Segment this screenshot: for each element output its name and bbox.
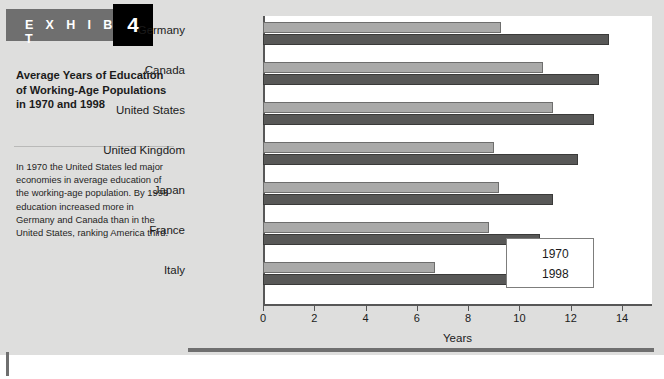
legend-swatch-1970 [516,246,532,261]
x-axis-tick-label: 8 [453,312,483,324]
x-axis-tick-label: 6 [402,312,432,324]
x-axis-title: Years [263,332,652,344]
bar-1998 [263,154,578,165]
x-axis-tick-label: 10 [504,312,534,324]
exhibit-figure: E X H I B I T 4 Average Years of Educati… [0,0,664,379]
left-accent-rule [6,352,9,376]
bar-1970 [263,22,501,33]
x-axis-tick-label: 14 [607,312,637,324]
legend-label-1970: 1970 [542,247,569,261]
bar-1998 [263,194,553,205]
y-axis-category-label: Germany [75,24,185,37]
x-axis-tick [468,306,469,311]
x-axis-tick [519,306,520,311]
bar-1970 [263,182,499,193]
x-axis-tick-label: 0 [248,312,278,324]
bar-1998 [263,274,507,285]
chart-panel: 02468101214 GermanyCanadaUnited StatesUn… [188,0,664,355]
legend-label-1998: 1998 [542,267,569,281]
bar-1998 [263,114,594,125]
y-axis-category-label: Italy [75,264,185,277]
chart-legend: 1970 1998 [506,238,594,288]
y-axis-category-label: Canada [75,64,185,77]
x-axis-tick [622,306,623,311]
legend-item-1998: 1998 [516,266,569,281]
bar-1998 [263,234,540,245]
x-axis-tick [263,306,264,311]
y-axis-category-label: Japan [75,184,185,197]
bar-1970 [263,102,553,113]
y-axis-category-label: United Kingdom [75,144,185,157]
bar-1970 [263,222,489,233]
y-axis-category-label: United States [75,104,185,117]
x-axis-tick-label: 4 [351,312,381,324]
x-axis-tick [366,306,367,311]
bar-1998 [263,74,599,85]
bar-1970 [263,142,494,153]
bar-1998 [263,34,609,45]
x-axis-tick-label: 2 [299,312,329,324]
x-axis-tick [417,306,418,311]
bottom-rule [188,348,654,352]
y-axis-category-label: France [75,224,185,237]
x-axis-tick-label: 12 [556,312,586,324]
legend-swatch-1998 [516,266,532,281]
x-axis-tick [314,306,315,311]
bar-1970 [263,62,543,73]
x-axis-tick [571,306,572,311]
exhibit-left-panel: E X H I B I T 4 Average Years of Educati… [0,0,188,355]
x-axis-line [263,304,652,306]
legend-item-1970: 1970 [516,246,569,261]
bar-1970 [263,262,435,273]
